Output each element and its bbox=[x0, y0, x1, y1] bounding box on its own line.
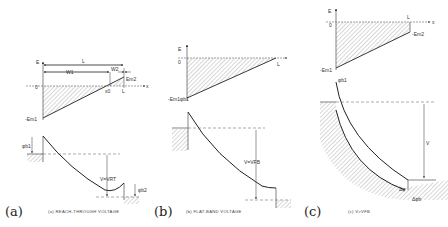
panel-a: E x 0 L W1 W2 Em2 x0 L -Em1 φb1 V=VRT φb… bbox=[5, 58, 149, 219]
caption-b: (b) FLAT-BAND VOLTAGE bbox=[186, 209, 242, 214]
vrt-label: V=VRT bbox=[100, 176, 116, 182]
panel-c: E x 0 L -Em2 -Em1 φb1 V Δφb Δφ (c) (c) V… bbox=[304, 8, 448, 219]
band-diagram-c: φb1 V Δφb Δφ bbox=[320, 77, 448, 202]
axis-label-x-c: x bbox=[432, 19, 435, 25]
field-plot-c: E x 0 L -Em2 -Em1 bbox=[320, 8, 435, 73]
caption-c: (c) V>VFB bbox=[348, 209, 370, 214]
x0-label: x0 bbox=[105, 88, 111, 94]
panel-b: E 0 L -Em1 φb1 V=VFB (b) (b) FLAT-BAND V… bbox=[154, 45, 291, 219]
em1-label-b: -Em1 bbox=[168, 96, 180, 102]
band-diagram-b: φb1 V=VFB bbox=[172, 96, 291, 208]
l-tick-label-b: L bbox=[277, 61, 280, 67]
w1-label: W1 bbox=[66, 69, 74, 75]
axis-label-e-c: E bbox=[328, 8, 332, 14]
em2-label: Em2 bbox=[126, 76, 137, 82]
origin-label-c: 0 bbox=[329, 22, 332, 28]
phi-b1-label-c: φb1 bbox=[338, 77, 347, 83]
l-tick-label-c: L bbox=[407, 14, 410, 20]
band-diagram-a: φb1 V=VRT φb2 bbox=[22, 136, 147, 204]
em2-label-c: -Em2 bbox=[412, 31, 424, 37]
dphi-label: Δφ bbox=[399, 186, 406, 192]
field-plot-a: E x 0 L W1 W2 Em2 x0 L -Em1 bbox=[25, 58, 149, 122]
field-plot-b: E 0 L -Em1 bbox=[168, 45, 287, 102]
phi-b1-label-b: φb1 bbox=[180, 96, 189, 102]
panel-letter-a: (a) bbox=[5, 204, 23, 219]
panel-letter-b: (b) bbox=[154, 204, 172, 219]
em1-label: -Em1 bbox=[25, 116, 37, 122]
caption-a: (a) REACH-THROUGH VOLTAGE bbox=[48, 209, 119, 214]
axis-label-x: x bbox=[146, 83, 149, 89]
panel-letter-c: (c) bbox=[304, 204, 321, 219]
l-tick-label: L bbox=[122, 88, 125, 94]
vfb-label: V=VFB bbox=[244, 159, 261, 165]
phi-b2-label: φb2 bbox=[138, 187, 147, 193]
phi-b1-label: φb1 bbox=[22, 143, 31, 149]
dphi-b-label: Δφb bbox=[412, 196, 422, 202]
axis-label-e-b: E bbox=[178, 46, 182, 52]
axis-label-e: E bbox=[36, 59, 40, 65]
em1-label-c: -Em1 bbox=[320, 67, 332, 73]
v-label-c: V bbox=[426, 140, 430, 146]
origin-label-b: 0 bbox=[178, 59, 181, 65]
length-label: L bbox=[82, 58, 85, 64]
diagram-canvas: E x 0 L W1 W2 Em2 x0 L -Em1 φb1 V=VRT φb… bbox=[0, 0, 448, 227]
origin-label: 0 bbox=[35, 84, 38, 90]
w2-label: W2 bbox=[111, 66, 119, 72]
